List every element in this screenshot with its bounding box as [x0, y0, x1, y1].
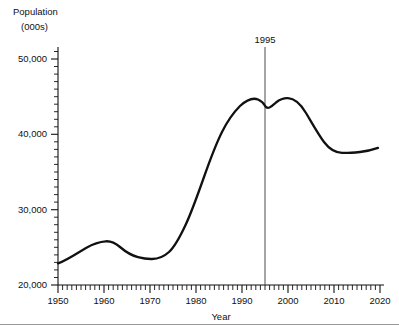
- x-tick-label-2020: 2020: [369, 295, 390, 306]
- y-tick-label-20000: 20,000: [18, 279, 47, 290]
- x-tick-label-1960: 1960: [93, 295, 114, 306]
- population-chart-figure: Population (000s): [0, 0, 399, 325]
- y-axis-title-line2: (000s): [21, 21, 48, 32]
- chart-background: [0, 0, 399, 325]
- y-tick-label-30000: 30,000: [18, 204, 47, 215]
- x-tick-label-1950: 1950: [47, 295, 68, 306]
- chart-svg: Population (000s): [0, 0, 399, 325]
- x-tick-label-2010: 2010: [323, 295, 344, 306]
- x-tick-label-1970: 1970: [139, 295, 160, 306]
- y-axis-title-line1: Population: [13, 6, 58, 17]
- y-tick-label-50000: 50,000: [18, 53, 47, 64]
- x-tick-label-1990: 1990: [231, 295, 252, 306]
- x-tick-label-2000: 2000: [277, 295, 298, 306]
- annotation-label-1995: 1995: [254, 34, 275, 45]
- y-tick-label-40000: 40,000: [18, 128, 47, 139]
- x-tick-label-1980: 1980: [185, 295, 206, 306]
- x-axis-title: Year: [211, 311, 230, 322]
